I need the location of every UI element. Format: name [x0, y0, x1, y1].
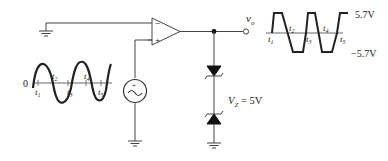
output-label: vo — [246, 12, 255, 27]
zener-stack — [205, 32, 223, 149]
ac-source: + — [124, 80, 147, 103]
output-low-label: −5.7V — [351, 48, 377, 59]
output-terminal — [243, 29, 248, 34]
source-polarity: + — [132, 82, 136, 90]
output-high-label: 5.7V — [355, 9, 376, 20]
svg-text:t5: t5 — [98, 87, 104, 98]
svg-text:t1: t1 — [35, 87, 41, 98]
output-waveform: t1 t2 t3 t4 t5 5.7V −5.7V — [266, 9, 377, 59]
svg-text:t2: t2 — [289, 23, 295, 34]
svg-text:t1: t1 — [268, 34, 274, 45]
noninverting-input-sign: + — [155, 35, 160, 45]
ground-source — [128, 141, 142, 146]
svg-text:t2: t2 — [52, 71, 58, 82]
inverting-input-sign: − — [155, 18, 161, 29]
circuit-diagram: − + + vo VZ = 5V — [0, 0, 388, 161]
svg-text:t4: t4 — [323, 23, 329, 34]
svg-text:t3: t3 — [306, 34, 312, 45]
ground-inverting — [39, 23, 148, 36]
op-amp: − + — [148, 18, 180, 45]
input-waveform: 0 t1 t2 t3 t4 t5 — [23, 62, 112, 103]
zener-voltage-label: VZ = 5V — [228, 95, 263, 109]
svg-text:t5: t5 — [340, 34, 346, 45]
zero-label: 0 — [23, 78, 28, 89]
